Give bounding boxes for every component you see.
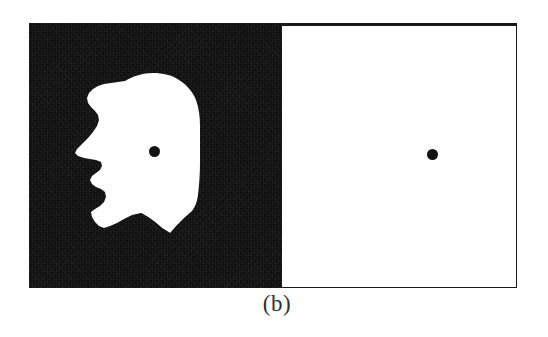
figure-caption: (b) (0, 291, 548, 317)
figure-caption-label: (b) (263, 291, 291, 317)
figure-root: (b) (0, 0, 548, 337)
fixation-dot-right (427, 149, 438, 160)
fixation-dot-left (149, 146, 160, 157)
face-silhouette-panel (29, 23, 282, 288)
panel-top-rule (282, 24, 516, 26)
panel-pair (29, 23, 517, 288)
blank-white-panel (282, 23, 517, 288)
